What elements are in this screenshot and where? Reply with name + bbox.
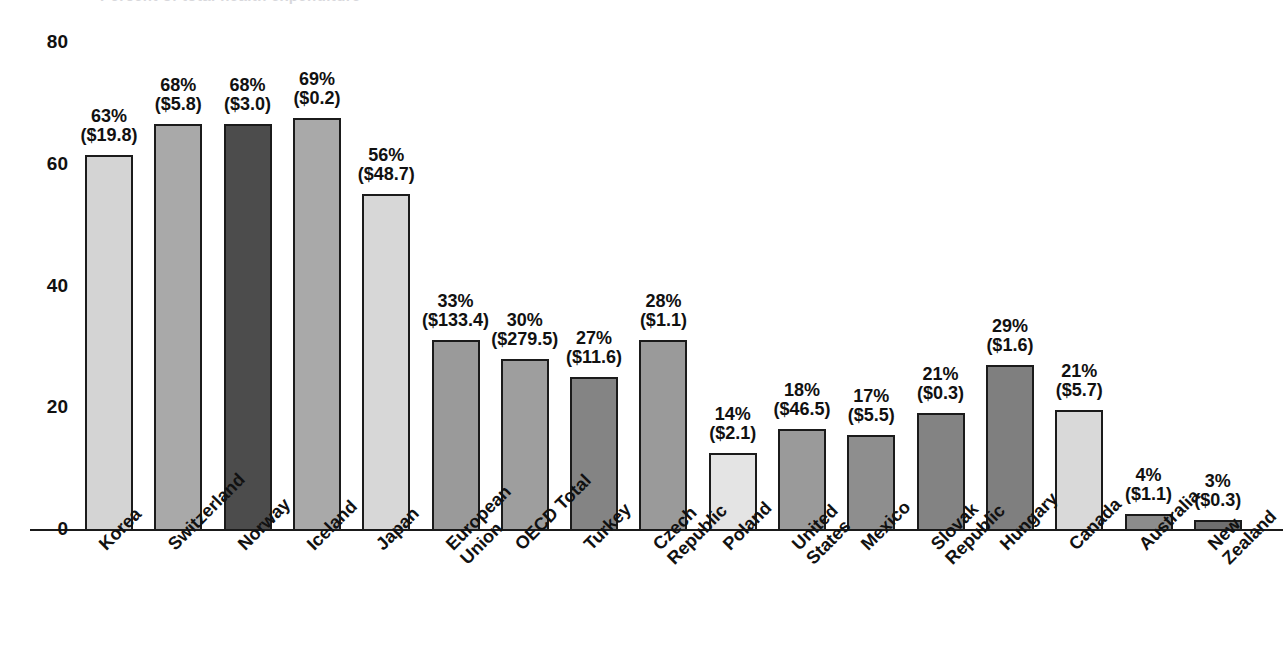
bar-percent-label: 27% (529, 329, 659, 348)
x-category-label-wrap: NewZealand (0, 536, 1287, 666)
chart-title-strip: Percent of total health expenditure (0, 0, 1287, 10)
bar-value-label: 21%($0.3) (876, 365, 1006, 403)
y-tick-label: 80 (12, 32, 68, 51)
bar-value-label: 29%($1.6) (945, 317, 1075, 355)
bar-value-label: 56%($48.7) (321, 146, 451, 184)
bar-value-label: 69%($0.2) (252, 70, 382, 108)
bar[interactable] (570, 377, 618, 529)
bar-percent-label: 29% (945, 317, 1075, 336)
bar-percent-label: 21% (876, 365, 1006, 384)
bar-amount-label: ($11.6) (529, 348, 659, 367)
bar-chart: Percent of total health expenditure 0204… (0, 0, 1287, 670)
bar[interactable] (362, 194, 410, 529)
bar-value-label: 28%($1.1) (598, 292, 728, 330)
bar-percent-label: 28% (598, 292, 728, 311)
bar-value-label: 27%($11.6) (529, 329, 659, 367)
bar-percent-label: 30% (460, 311, 590, 330)
bar-percent-label: 3% (1153, 472, 1283, 491)
bar-percent-label: 56% (321, 146, 451, 165)
bar[interactable] (432, 340, 480, 529)
bar-percent-label: 33% (391, 292, 521, 311)
bar-amount-label: ($2.1) (668, 424, 798, 443)
chart-title: Percent of total health expenditure (100, 0, 361, 4)
bar-amount-label: ($0.3) (876, 384, 1006, 403)
bar[interactable] (154, 124, 202, 529)
bar-amount-label: ($1.1) (598, 311, 728, 330)
bar-percent-label: 69% (252, 70, 382, 89)
bar[interactable] (224, 124, 272, 529)
y-tick-label: 60 (12, 154, 68, 173)
bar[interactable] (85, 155, 133, 529)
bar-amount-label: ($5.5) (806, 406, 936, 425)
bar-percent-label: 21% (1014, 362, 1144, 381)
y-tick-label: 20 (12, 397, 68, 416)
bar-amount-label: ($1.6) (945, 336, 1075, 355)
y-tick-label: 40 (12, 276, 68, 295)
bar-amount-label: ($48.7) (321, 165, 451, 184)
bar-value-label: 21%($5.7) (1014, 362, 1144, 400)
bar-amount-label: ($5.7) (1014, 381, 1144, 400)
bar-amount-label: ($0.2) (252, 89, 382, 108)
bar-amount-label: ($19.8) (44, 126, 174, 145)
